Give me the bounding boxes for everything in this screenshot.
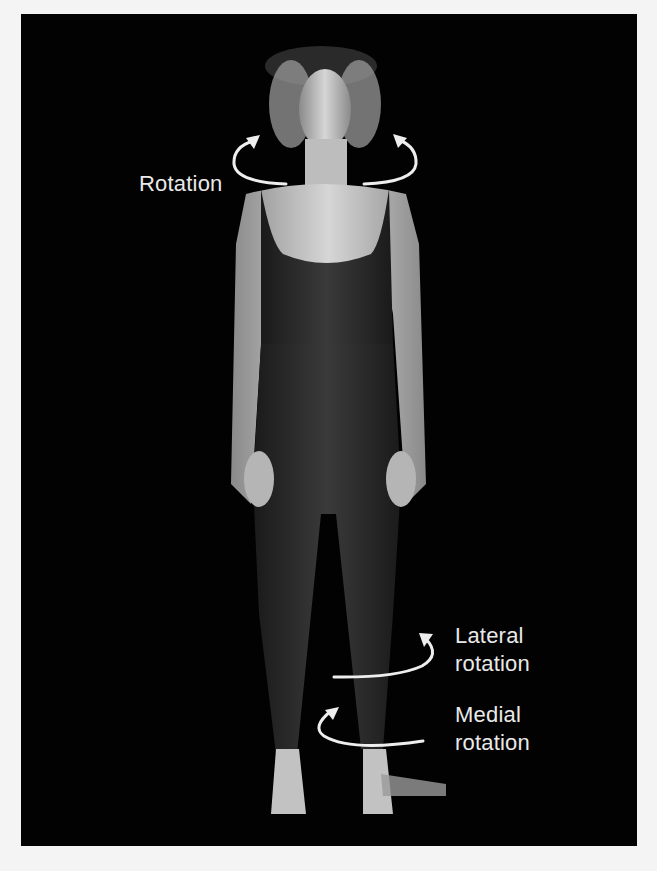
neck-rotation-right-arrow xyxy=(364,140,416,184)
left-foot xyxy=(271,749,306,814)
neck-rotation-left-arrow xyxy=(234,141,286,184)
neck-rotation-label: Rotation xyxy=(139,171,223,197)
leggings xyxy=(253,344,401,754)
right-foot-rotated xyxy=(381,774,446,796)
left-hand xyxy=(244,451,274,507)
lateral-rotation-label-line2: rotation xyxy=(455,651,530,677)
lateral-rotation-label-line1: Lateral xyxy=(455,623,524,649)
anatomy-photo: Rotation Lateral rotation Medial rotatio… xyxy=(21,14,637,846)
neck xyxy=(305,139,347,189)
right-hand xyxy=(386,451,416,507)
medial-rotation-label-line2: rotation xyxy=(455,730,530,756)
arrowhead xyxy=(393,134,407,148)
medial-rotation-label-line1: Medial xyxy=(455,702,521,728)
human-figure-illustration xyxy=(21,14,637,846)
head xyxy=(299,69,351,149)
